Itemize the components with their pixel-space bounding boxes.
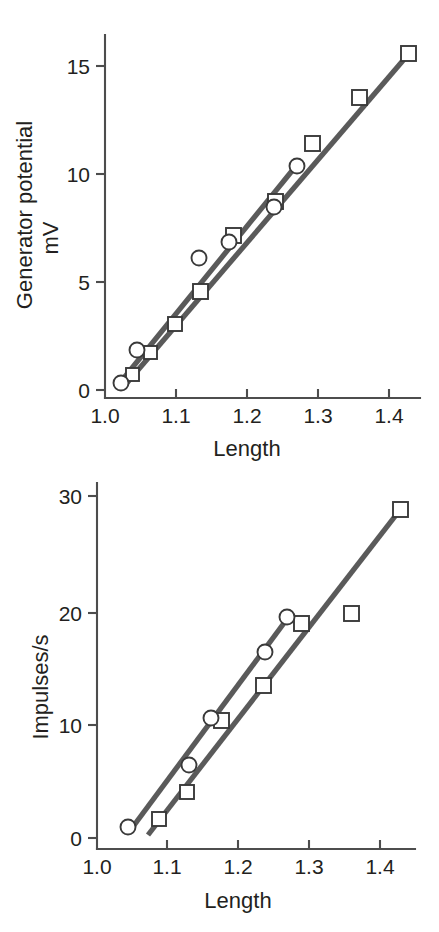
data-point-circle: [192, 251, 207, 266]
x-tick-label-1p3: 1.3: [303, 404, 332, 427]
data-point-square: [393, 502, 408, 517]
y-axis-title-line2: mV: [38, 221, 63, 254]
x-tick-label-1p4: 1.4: [365, 855, 395, 878]
data-point-square: [152, 812, 166, 826]
data-point-square: [305, 136, 320, 151]
x-tick-label-1p0: 1.0: [82, 855, 111, 878]
y-tick-label-0: 0: [70, 827, 82, 850]
data-point-square: [193, 284, 208, 299]
chart-panel-generator-potential: 0 5 10 15 1.0 1.1 1.2 1.3 1.4 Length Gen…: [0, 0, 439, 466]
data-point-circle: [182, 758, 197, 773]
data-point-circle: [267, 200, 282, 215]
data-point-circle: [258, 645, 273, 660]
y-axis-title-line1: Generator potential: [12, 121, 37, 309]
data-point-circle: [280, 610, 295, 625]
figure-container: 0 5 10 15 1.0 1.1 1.2 1.3 1.4 Length Gen…: [0, 0, 439, 932]
y-tick-label-15: 15: [67, 55, 90, 78]
fit-lines-group: [132, 506, 403, 835]
x-tick-label-1p3: 1.3: [294, 855, 323, 878]
y-tick-label-30: 30: [59, 485, 82, 508]
data-point-square: [144, 346, 157, 359]
x-tick-label-1p0: 1.0: [90, 404, 119, 427]
fit-lines-group: [119, 50, 412, 384]
chart-panel-impulses: 0 10 20 30 1.0 1.1 1.2 1.3 1.4 Length Im…: [0, 440, 439, 932]
data-point-circle: [290, 159, 305, 174]
y-tick-label-20: 20: [59, 602, 82, 625]
data-point-circle: [222, 235, 237, 250]
data-point-square: [180, 785, 194, 799]
data-point-square: [344, 606, 359, 621]
x-tick-label-1p1: 1.1: [152, 855, 181, 878]
data-point-square: [352, 90, 367, 105]
data-point-square: [294, 616, 309, 631]
data-point-square: [256, 678, 271, 693]
x-tick-label-1p1: 1.1: [161, 404, 190, 427]
data-point-circle: [204, 711, 219, 726]
data-point-circle: [121, 820, 136, 835]
y-tick-label-0: 0: [78, 379, 90, 402]
data-point-circle: [130, 343, 145, 358]
data-point-circle: [114, 376, 129, 391]
impulses-plot: 0 10 20 30 1.0 1.1 1.2 1.3 1.4 Length Im…: [0, 440, 439, 932]
square-fit-line: [126, 50, 412, 384]
y-tick-label-5: 5: [78, 271, 90, 294]
x-tick-label-1p2: 1.2: [223, 855, 252, 878]
x-tick-label-1p2: 1.2: [232, 404, 261, 427]
data-point-square: [401, 46, 416, 61]
x-axis-title: Length: [204, 888, 271, 913]
y-tick-label-10: 10: [59, 714, 82, 737]
x-tick-label-1p4: 1.4: [374, 404, 404, 427]
y-axis-title: Impulses/s: [28, 634, 53, 739]
data-point-square: [168, 317, 182, 331]
generator-potential-plot: 0 5 10 15 1.0 1.1 1.2 1.3 1.4 Length Gen…: [0, 0, 439, 466]
y-tick-label-10: 10: [67, 163, 90, 186]
